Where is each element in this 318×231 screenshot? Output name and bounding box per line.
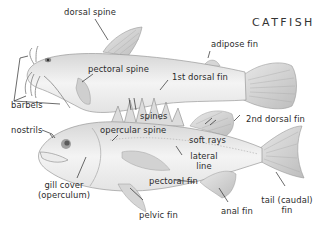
label-spines: spines (140, 112, 167, 120)
label-2nd-dorsal-fin: 2nd dorsal fin (246, 115, 305, 123)
label-gill-cover-1: gill cover (34, 181, 94, 189)
label-dorsal-spine: dorsal spine (64, 8, 116, 16)
label-nostrils: nostrils (11, 126, 42, 134)
label-gill-cover-2: (operculum) (34, 191, 94, 199)
label-tail-2: fin (256, 206, 318, 214)
label-gill-cover: gill cover (operculum) (34, 181, 94, 200)
label-pectoral-fin: pectoral fin (149, 177, 198, 185)
label-1st-dorsal-fin: 1st dorsal fin (172, 73, 228, 81)
label-anal-fin: anal fin (221, 207, 253, 215)
label-lateral-line-2: line (184, 162, 224, 170)
label-lateral-line-1: lateral (184, 152, 224, 160)
label-tail-1: tail (caudal) (256, 196, 318, 204)
diagram-title: CATFISH (252, 17, 315, 28)
label-pectoral-spine: pectoral spine (88, 65, 149, 73)
fish-anatomy-diagram: CATFISH dorsal spine adipose fin pectora… (0, 0, 318, 231)
label-lateral-line: lateral line (184, 152, 224, 171)
label-soft-rays: soft rays (189, 136, 226, 144)
label-adipose-fin: adipose fin (211, 40, 258, 48)
label-opercular-spine: opercular spine (100, 126, 166, 134)
label-pelvic-fin: pelvic fin (139, 211, 178, 219)
label-tail-caudal-fin: tail (caudal) fin (256, 196, 318, 215)
label-barbels: barbels (11, 101, 43, 109)
